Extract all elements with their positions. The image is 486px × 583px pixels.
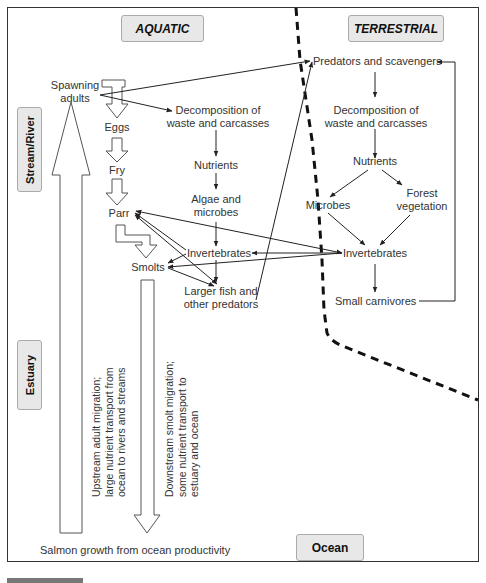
node-terrestrial-nutrients: Nutrients — [345, 155, 405, 168]
node-larger-fish: Larger fish and other predators — [180, 285, 262, 311]
algae-line2: microbes — [186, 206, 246, 219]
upstream-migration-text: Upstream adult migration; large nutrient… — [90, 367, 128, 497]
terrestrial-decomp-line2: waste and carcasses — [322, 117, 430, 130]
upstream-line3: ocean to rivers and streams — [115, 367, 128, 497]
eggs-to-fry-arrow — [106, 138, 128, 162]
node-parr: Parr — [104, 207, 134, 220]
node-small-carnivores: Small carnivores — [335, 295, 415, 308]
node-aquatic-invertebrates: Invertebrates — [186, 247, 252, 260]
downstream-line1: Downstream smolt migration; — [163, 361, 176, 497]
estuary-zone-label: Estuary — [17, 340, 42, 410]
terrestrial-decomp-line1: Decomposition of — [322, 104, 430, 117]
adults-to-eggs-arrow — [102, 80, 128, 118]
larger-fish-line1: Larger fish and — [180, 285, 262, 298]
upstream-line1: Upstream adult migration; — [90, 367, 103, 497]
terrestrial-header: TERRESTRIAL — [348, 15, 444, 42]
spawning-adults-line2: adults — [45, 92, 105, 105]
node-terrestrial-invertebrates: Invertebrates — [342, 247, 408, 260]
stream-river-zone-label: Stream/River — [17, 107, 42, 192]
node-algae-microbes: Algae and microbes — [186, 193, 246, 219]
spawning-adults-line1: Spawning — [45, 79, 105, 92]
node-fry: Fry — [104, 164, 130, 177]
aquatic-header-label: AQUATIC — [136, 22, 190, 36]
forest-line1: Forest — [392, 187, 452, 200]
estuary-label: Estuary — [24, 355, 36, 395]
downstream-migration-text: Downstream smolt migration; some nutrien… — [163, 361, 201, 497]
aquatic-header: AQUATIC — [121, 15, 204, 42]
node-terrestrial-decomposition: Decomposition of waste and carcasses — [322, 104, 430, 130]
footer-bar — [7, 578, 83, 583]
downstream-migration-arrow — [134, 280, 160, 533]
stream-river-label: Stream/River — [24, 116, 36, 184]
ocean-header-label: Ocean — [312, 541, 349, 555]
upstream-migration-arrow — [52, 102, 90, 533]
upstream-line2: large nutrient transport from — [103, 367, 116, 497]
aquatic-decomp-line1: Decomposition of — [164, 104, 272, 117]
node-smolts: Smolts — [128, 261, 168, 274]
node-aquatic-decomposition: Decomposition of waste and carcasses — [164, 104, 272, 130]
downstream-line3: estuary and ocean — [188, 361, 201, 497]
terrestrial-header-label: TERRESTRIAL — [354, 22, 438, 36]
larger-fish-line2: other predators — [180, 298, 262, 311]
forest-line2: vegetation — [392, 200, 452, 213]
node-forest-vegetation: Forest vegetation — [392, 187, 452, 213]
node-spawning-adults: Spawning adults — [45, 79, 105, 105]
parr-to-smolts-arrow — [116, 225, 157, 258]
algae-line1: Algae and — [186, 193, 246, 206]
node-microbes: Microbes — [300, 199, 356, 212]
node-predators-scavengers: Predators and scavengers — [313, 55, 437, 68]
fry-to-parr-arrow — [106, 179, 128, 205]
salmon-growth-label: Salmon growth from ocean productivity — [40, 544, 220, 557]
downstream-line2: some nutrient transport to — [176, 361, 189, 497]
ocean-header: Ocean — [296, 534, 364, 561]
aquatic-decomp-line2: waste and carcasses — [164, 117, 272, 130]
node-aquatic-nutrients: Nutrients — [186, 159, 246, 172]
node-eggs: Eggs — [100, 121, 134, 134]
